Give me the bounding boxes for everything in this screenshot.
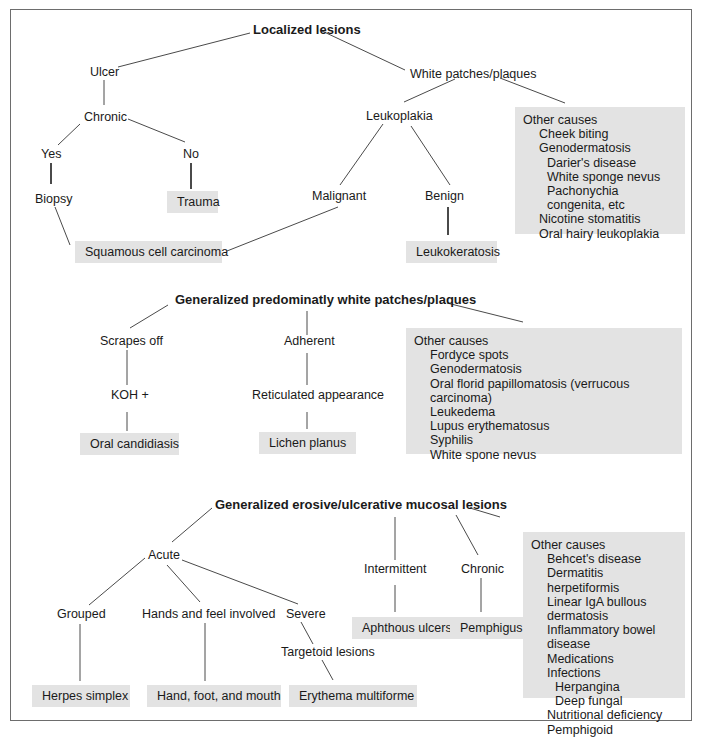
other-causes-erosive: Other causes Behcet's disease Dermatitis… [523, 532, 685, 698]
node-scrapes-off: Scrapes off [100, 333, 163, 349]
node-grouped: Grouped [57, 606, 106, 622]
node-adherent: Adherent [284, 333, 335, 349]
cause-item: Infections [531, 666, 677, 680]
other-causes-title: Other causes [531, 538, 677, 552]
cause-item: Genodermatosis [523, 141, 677, 155]
cause-subitem: Herpangina [531, 680, 677, 694]
node-koh-positive: KOH + [111, 387, 149, 403]
other-causes-title: Other causes [523, 113, 677, 127]
cause-item: Cheek biting [523, 127, 677, 141]
node-intermittent: Intermittent [364, 561, 427, 577]
root-localized-lesions: Localized lesions [253, 22, 361, 38]
node-reticulated-appearance: Reticulated appearance [252, 387, 384, 403]
result-squamous-cell-carcinoma: Squamous cell carcinoma [75, 241, 222, 263]
node-biopsy: Biopsy [35, 191, 73, 207]
node-acute: Acute [148, 547, 180, 563]
result-oral-candidiasis: Oral candidiasis [80, 433, 179, 455]
cause-item: Syphilis [414, 433, 674, 447]
cause-item: Nutritional deficiency [531, 708, 677, 722]
result-herpes-simplex: Herpes simplex [32, 685, 130, 707]
cause-item: Pemphigoid [531, 723, 677, 737]
other-causes-title: Other causes [414, 334, 674, 348]
cause-item: Leukedema [414, 405, 674, 419]
result-leukokeratosis: Leukokeratosis [406, 241, 497, 263]
cause-item: Linear IgA bullous dermatosis [531, 595, 677, 623]
cause-item: Dermatitis herpetiformis [531, 566, 677, 594]
node-ulcer: Ulcer [90, 64, 119, 80]
result-hand-foot-mouth: Hand, foot, and mouth [147, 685, 281, 707]
result-erythema-multiforme: Erythema multiforme [289, 685, 417, 707]
cause-subitem: White sponge nevus [523, 170, 677, 184]
cause-item: Inflammatory bowel disease [531, 623, 677, 651]
cause-item: Genodermatosis [414, 362, 674, 376]
node-chronic-erosive: Chronic [461, 561, 504, 577]
cause-subitem: Pachonychia congenita, etc [523, 184, 677, 212]
cause-subitem: Deep fungal [531, 694, 677, 708]
root-generalized-erosive-ulcerative: Generalized erosive/ulcerative mucosal l… [215, 497, 507, 513]
cause-item: Oral florid papillomatosis (verrucous ca… [414, 377, 674, 405]
node-no: No [183, 146, 199, 162]
cause-item: Medications [531, 652, 677, 666]
node-leukoplakia: Leukoplakia [366, 108, 433, 124]
cause-item: Fordyce spots [414, 348, 674, 362]
node-targetoid-lesions: Targetoid lesions [281, 644, 375, 660]
node-yes: Yes [41, 146, 61, 162]
result-pemphigus: Pemphigus [450, 617, 531, 639]
result-aphthous-ulcers: Aphthous ulcers [352, 617, 455, 639]
cause-item: Oral hairy leukoplakia [523, 227, 677, 241]
root-generalized-white-patches: Generalized predominatly white patches/p… [175, 292, 476, 308]
node-severe: Severe [286, 606, 326, 622]
node-hands-feet-involved: Hands and feel involved [142, 606, 275, 622]
result-lichen-planus: Lichen planus [259, 432, 356, 454]
node-chronic: Chronic [84, 109, 127, 125]
node-malignant: Malignant [312, 188, 366, 204]
other-causes-localized: Other causes Cheek biting Genodermatosis… [515, 107, 685, 234]
node-white-patches: White patches/plaques [410, 66, 536, 82]
node-benign: Benign [425, 188, 464, 204]
cause-item: White spone nevus [414, 448, 674, 462]
cause-item: Lupus erythematosus [414, 419, 674, 433]
result-trauma: Trauma [167, 191, 218, 213]
cause-item: Nicotine stomatitis [523, 212, 677, 226]
other-causes-generalized-white: Other causes Fordyce spots Genodermatosi… [406, 328, 682, 454]
cause-subitem: Darier's disease [523, 156, 677, 170]
cause-item: Behcet's disease [531, 552, 677, 566]
